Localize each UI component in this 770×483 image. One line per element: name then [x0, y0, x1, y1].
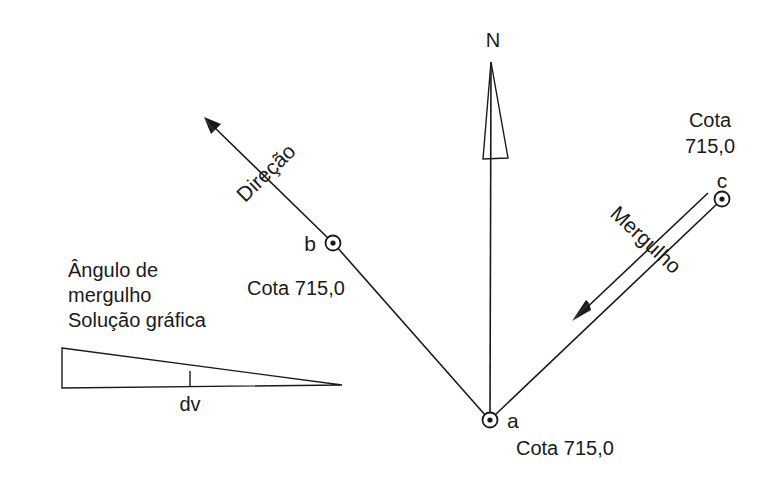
note-line-2: mergulho [68, 284, 151, 306]
point-label-b: b [304, 232, 316, 255]
geology-strike-dip-diagram: N Direção Mergulho b Cota 715 [0, 0, 770, 483]
point-elevation-c-line2: 715,0 [685, 135, 735, 157]
point-label-a: a [507, 409, 519, 432]
survey-point-marker-icon-a[interactable] [483, 413, 498, 428]
point-elevation-a: Cota 715,0 [516, 437, 614, 459]
point-elevation-b: Cota 715,0 [247, 277, 345, 299]
diagram-canvas: N Direção Mergulho b Cota 715 [0, 0, 770, 483]
point-elevation-c-line1: Cota [689, 109, 732, 131]
survey-point-marker-icon-b[interactable] [326, 236, 341, 251]
dv-label: dv [179, 393, 200, 415]
survey-point-marker-icon-c[interactable] [715, 192, 730, 207]
north-label: N [486, 29, 500, 51]
dip-angle-wedge-icon [62, 348, 342, 388]
note-line-1: Ângulo de [68, 259, 158, 281]
note-line-3: Solução gráfica [68, 309, 207, 331]
dip-arrow-icon [572, 193, 708, 321]
north-arrow-icon [483, 62, 508, 418]
line-a-to-b [336, 246, 486, 416]
direcao-label: Direção [232, 139, 300, 206]
line-a-to-c [495, 203, 718, 415]
mergulho-label: Mergulho [606, 201, 686, 278]
point-label-c: c [717, 169, 728, 192]
